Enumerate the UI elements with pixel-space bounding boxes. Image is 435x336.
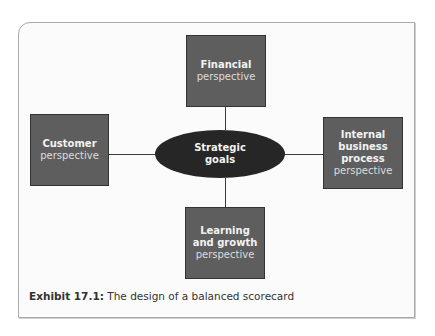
internal-business-process-box: Internal business process perspective [323,117,403,189]
financial-perspective-box: Financial perspective [186,35,266,107]
node-title: Customer [42,138,96,150]
node-subtitle: perspective [197,71,256,83]
node-title: Learning [200,225,250,237]
node-title: process [341,153,385,165]
caption-text: The design of a balanced scorecard [107,290,294,302]
connector-bottom [225,178,226,207]
node-subtitle: perspective [196,249,255,261]
connector-right [284,154,323,155]
node-title: business [338,141,387,153]
caption-label: Exhibit 17.1: [29,290,104,302]
connector-left [108,154,156,155]
center-line1: Strategic [194,142,246,154]
learning-growth-box: Learning and growth perspective [185,207,265,279]
node-subtitle: perspective [40,150,99,162]
strategic-goals-ellipse: Strategic goals [155,130,285,178]
figure-caption: Exhibit 17.1: The design of a balanced s… [29,290,294,302]
node-title: Internal [341,129,386,141]
node-title: Financial [201,59,252,71]
node-subtitle: perspective [334,165,393,177]
connector-top [225,106,226,130]
customer-perspective-box: Customer perspective [30,114,109,186]
center-line2: goals [194,154,246,166]
node-title: and growth [193,237,258,249]
